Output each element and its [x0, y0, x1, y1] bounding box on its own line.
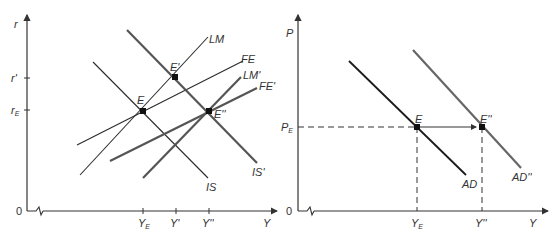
right-x-axis-break-icon — [298, 207, 314, 215]
label-is: IS — [206, 181, 217, 193]
point-e — [140, 108, 146, 114]
right-x-axis-label: Y — [529, 217, 537, 229]
label-fe: FE — [241, 53, 256, 65]
x-tick-label-y-prime: Y' — [170, 217, 180, 229]
right-x-tick-label-y-e: YE — [411, 217, 423, 230]
label-point-e-double-prime-right: E'' — [480, 113, 492, 125]
left-origin-label: 0 — [16, 205, 22, 217]
point-e-prime — [172, 74, 178, 80]
curve-fe — [77, 61, 243, 145]
label-point-e-prime: E' — [170, 61, 180, 73]
label-ad-double-prime: AD'' — [511, 171, 532, 183]
left-panel-is-lm-fe: r Y 0 r' rE YE Y' Y'' LM FE LM' FE' IS I… — [11, 15, 277, 230]
label-point-e: E — [137, 94, 145, 106]
y-tick-label-r-e: rE — [11, 104, 20, 117]
label-lm: LM — [209, 33, 225, 45]
left-x-axis-break-icon — [27, 207, 43, 215]
label-point-e-double-prime: E'' — [214, 108, 226, 120]
curve-fe-prime — [110, 88, 257, 161]
left-x-axis-label: Y — [263, 217, 271, 229]
point-e-double-prime — [206, 108, 212, 114]
label-is-prime: IS' — [252, 166, 265, 178]
curve-lm — [80, 37, 208, 175]
x-tick-label-y-e: YE — [138, 217, 150, 230]
curve-ad — [349, 61, 466, 175]
label-ad: AD — [461, 178, 477, 190]
label-fe-prime: FE' — [259, 80, 276, 92]
curve-ad-double-prime — [413, 50, 521, 168]
right-y-axis-label: P — [286, 27, 294, 39]
label-point-e-right: E — [415, 113, 423, 125]
y-tick-label-p-e: PE — [281, 121, 293, 134]
is-lm-fe-ad-diagram: r Y 0 r' rE YE Y' Y'' LM FE LM' FE' IS I… — [0, 0, 559, 238]
x-tick-label-y-double-prime: Y'' — [202, 217, 214, 229]
left-y-axis-label: r — [14, 18, 19, 30]
right-x-tick-label-y-double-prime: Y'' — [475, 217, 487, 229]
right-panel-ad: P Y 0 PE YE Y'' AD AD'' E E'' — [281, 15, 548, 230]
right-origin-label: 0 — [286, 205, 292, 217]
y-tick-label-r-prime: r' — [11, 72, 18, 84]
